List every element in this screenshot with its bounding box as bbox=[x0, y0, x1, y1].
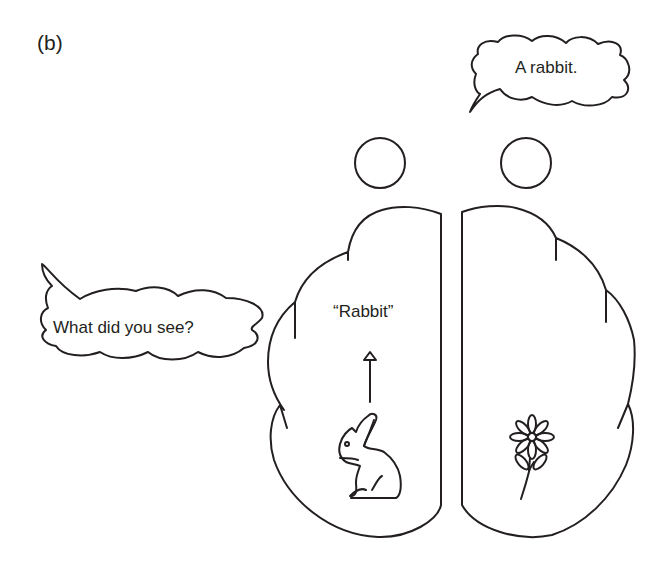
left-hemisphere-outline bbox=[268, 207, 441, 537]
verbal-label-rabbit: “Rabbit” bbox=[333, 302, 393, 322]
flower-icon bbox=[510, 415, 554, 499]
left-bubble-text: What did you see? bbox=[53, 318, 194, 338]
panel-label: (b) bbox=[37, 31, 63, 55]
right-head-circle bbox=[501, 138, 551, 188]
right-hemisphere-outline bbox=[462, 206, 635, 537]
left-head-circle bbox=[355, 138, 405, 188]
arrow-head-icon bbox=[364, 352, 376, 360]
left-speech-bubble bbox=[41, 264, 263, 360]
split-brain-diagram bbox=[0, 0, 668, 568]
right-bubble-text: A rabbit. bbox=[515, 58, 577, 78]
rabbit-icon bbox=[339, 414, 401, 498]
